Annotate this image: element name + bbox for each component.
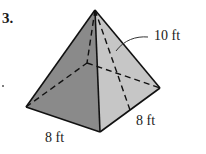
stray-dot [2,85,4,87]
problem-number: 3. [2,11,13,26]
slant-height-label: 10 ft [154,29,180,43]
base-left-length-label: 8 ft [45,131,64,145]
base-right-length-label: 8 ft [136,114,155,128]
pyramid-figure [0,0,206,154]
left-face [26,10,100,132]
pyramid-diagram: 3. 10 ft 8 ft 8 ft [0,0,206,154]
